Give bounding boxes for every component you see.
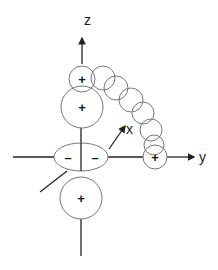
x-axis-label: x: [126, 121, 133, 137]
right-small-lobe: +: [143, 145, 167, 169]
torus-right-sign: –: [91, 150, 98, 165]
y-axis-label: y: [199, 149, 206, 165]
rotation-path-circles: [91, 66, 164, 155]
torus-left-sign: –: [64, 150, 71, 165]
path-circle: [104, 76, 128, 100]
path-circle: [140, 119, 162, 141]
path-circle: [119, 88, 143, 112]
y-axis: y: [13, 149, 206, 165]
top-small-lobe-sign: +: [78, 72, 86, 87]
right-small-lobe-sign: +: [151, 150, 159, 165]
orbital-diagram: z y x + + – –: [0, 0, 218, 270]
top-large-lobe-sign: +: [78, 100, 86, 115]
bottom-large-lobe: +: [60, 177, 102, 219]
z-axis: z: [82, 12, 91, 64]
path-circle: [132, 102, 154, 124]
torus-ring: – –: [54, 143, 108, 171]
z-axis-label: z: [84, 12, 91, 28]
bottom-large-lobe-sign: +: [77, 191, 85, 206]
